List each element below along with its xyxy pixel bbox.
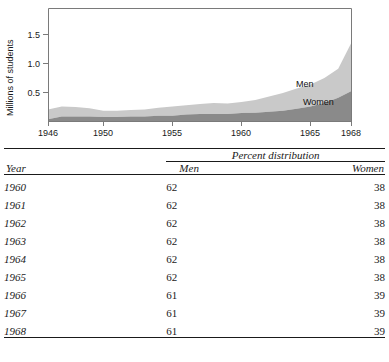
table-row: 1964 62 38 [4, 247, 385, 265]
cell-men: 62 [166, 229, 281, 247]
table-row: 1966 61 39 [4, 283, 385, 301]
cell-men: 62 [166, 211, 281, 229]
cell-men: 62 [166, 193, 281, 211]
cell-men: 61 [166, 283, 281, 301]
cell-year: 1964 [4, 247, 166, 265]
cell-men: 62 [166, 247, 281, 265]
table-span-header-row: Percent distribution [4, 149, 385, 162]
students-area-chart: Millions of students 1.5 1.0 0.5 [0, 0, 389, 142]
table-row: 1963 62 38 [4, 229, 385, 247]
cell-men: 62 [166, 265, 281, 283]
table-row: 1962 62 38 [4, 211, 385, 229]
y-tick-label-1_5: 1.5 [27, 30, 40, 40]
cell-year: 1967 [4, 301, 166, 319]
table-row: 1965 62 38 [4, 265, 385, 283]
cell-women: 38 [281, 175, 385, 194]
x-tick-label-1946: 1946 [38, 128, 58, 138]
series-label-men: Men [296, 79, 314, 89]
table-row: 1967 61 39 [4, 301, 385, 319]
table-row: 1968 61 39 [4, 319, 385, 337]
cell-year: 1963 [4, 229, 166, 247]
series-label-women: Women [303, 97, 334, 107]
x-tick-label-1955: 1955 [162, 128, 182, 138]
cell-women: 39 [281, 283, 385, 301]
x-tick-label-1960: 1960 [231, 128, 251, 138]
x-tick-label-1968: 1968 [341, 128, 361, 138]
table-column-header-row: Year Men Women [4, 162, 385, 175]
x-tick-label-1965: 1965 [300, 128, 320, 138]
percent-distribution-table: Percent distribution Year Men Women 1960… [4, 148, 385, 338]
cell-women: 38 [281, 265, 385, 283]
cell-women: 38 [281, 247, 385, 265]
cell-women: 39 [281, 319, 385, 337]
cell-women: 39 [281, 301, 385, 319]
x-tick-label-1950: 1950 [93, 128, 113, 138]
y-tick-label-0_5: 0.5 [27, 88, 40, 98]
cell-women: 38 [281, 229, 385, 247]
y-tick-label-1_0: 1.0 [27, 59, 40, 69]
table-row: 1961 62 38 [4, 193, 385, 211]
chart-figure: Millions of students 1.5 1.0 0.5 [0, 0, 389, 142]
cell-year: 1960 [4, 175, 166, 194]
column-header-women: Women [281, 162, 385, 175]
y-axis-title: Millions of students [5, 39, 15, 116]
cell-year: 1968 [4, 319, 166, 337]
cell-year: 1962 [4, 211, 166, 229]
span-header-percent-distribution: Percent distribution [166, 149, 385, 162]
cell-year: 1961 [4, 193, 166, 211]
cell-year: 1965 [4, 265, 166, 283]
table-row: 1960 62 38 [4, 175, 385, 194]
span-header-blank [4, 149, 166, 162]
cell-year: 1966 [4, 283, 166, 301]
y-axis-ticks [43, 35, 48, 93]
cell-women: 38 [281, 193, 385, 211]
column-header-men: Men [166, 162, 281, 175]
table-rule-bottom [4, 337, 385, 338]
cell-men: 62 [166, 175, 281, 194]
cell-women: 38 [281, 211, 385, 229]
cell-men: 61 [166, 319, 281, 337]
cell-men: 61 [166, 301, 281, 319]
column-header-year: Year [4, 162, 166, 175]
